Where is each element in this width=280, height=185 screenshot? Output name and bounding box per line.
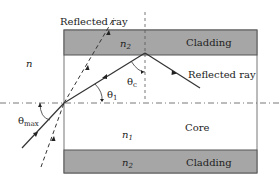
top-reflected-ray-label: Reflected ray [60, 16, 128, 27]
thetamax-arc [40, 103, 50, 120]
thetamax-arrow-icon [38, 103, 42, 107]
bottom-cladding-label: Cladding [186, 157, 232, 168]
top-cladding-label: Cladding [186, 37, 232, 48]
right-reflected-ray-label: Reflected ray [188, 69, 256, 80]
fiber-diagram: Reflected ray Reflected ray n n2 Claddin… [0, 0, 280, 185]
steep-incident-ray [41, 103, 64, 167]
outer-medium-index: n [26, 58, 32, 69]
theta-max-label: θmax [18, 115, 39, 128]
core-label: Core [185, 122, 209, 133]
